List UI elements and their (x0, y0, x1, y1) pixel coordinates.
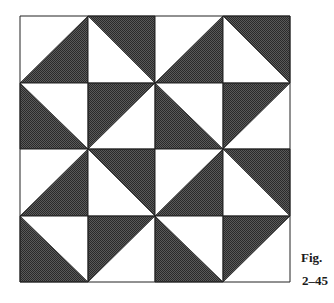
quilt-pattern-figure (0, 0, 334, 303)
quilt-cell (223, 149, 290, 216)
quilt-cell (155, 16, 223, 83)
quilt-cell (223, 16, 290, 83)
quilt-cell (20, 83, 88, 149)
quilt-cell (88, 83, 155, 149)
quilt-cell (20, 149, 88, 216)
figure-caption-label: Fig. (301, 251, 322, 264)
quilt-cell (155, 83, 223, 149)
quilt-cell (88, 216, 155, 282)
quilt-cell (88, 149, 155, 216)
quilt-cell (20, 216, 88, 282)
quilt-cell (155, 149, 223, 216)
quilt-cell (88, 16, 155, 83)
quilt-cell (155, 216, 223, 282)
quilt-cell (20, 16, 88, 83)
quilt-cell (223, 83, 290, 149)
quilt-cell (223, 216, 290, 282)
figure-caption-number: 2–45 (302, 274, 328, 287)
